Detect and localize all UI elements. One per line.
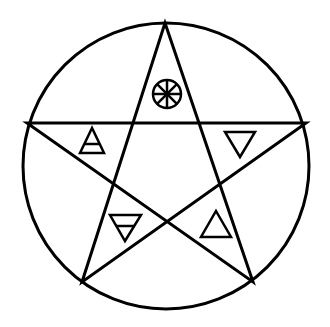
outer-circle — [23, 23, 309, 309]
water-triangle-icon — [225, 132, 255, 157]
spirit-wheel-icon — [153, 80, 181, 108]
earth-triangle-icon — [110, 215, 141, 241]
pentagram-diagram — [0, 0, 330, 327]
air-triangle-icon — [80, 128, 104, 153]
fire-triangle-icon — [201, 211, 231, 237]
